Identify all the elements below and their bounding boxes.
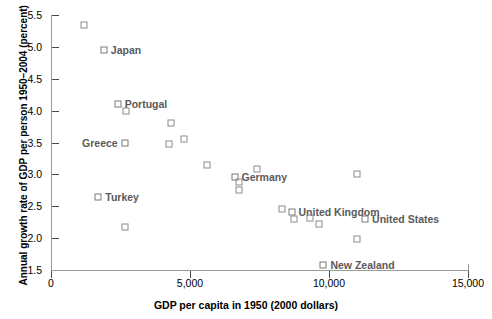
point-label: Portugal (125, 98, 168, 110)
y-tick (52, 238, 59, 239)
data-point-new-zealand (320, 261, 327, 268)
y-tick-label: 1.5 (8, 264, 42, 276)
data-point (167, 120, 174, 127)
data-point (235, 186, 242, 193)
data-point (81, 21, 88, 28)
y-tick (52, 79, 59, 80)
data-point (203, 161, 210, 168)
y-tick-label: 2.5 (8, 200, 42, 212)
y-tick-label: 4.5 (8, 73, 42, 85)
scatter-chart: Annual growth rate of GDP per person 195… (0, 0, 492, 319)
data-point-greece (121, 140, 128, 147)
x-axis-title: GDP per capita in 1950 (2000 dollars) (0, 299, 492, 311)
x-axis-line (51, 270, 469, 271)
point-label: Turkey (105, 191, 139, 203)
data-point-portugal (114, 101, 121, 108)
point-label: Germany (242, 171, 288, 183)
data-point-turkey (95, 193, 102, 200)
y-tick (52, 143, 59, 144)
y-tick-label: 3.5 (8, 137, 42, 149)
point-label: Japan (111, 44, 141, 56)
point-label: United States (372, 213, 439, 225)
data-point (166, 141, 173, 148)
data-point (181, 136, 188, 143)
x-tick-label: 5,000 (177, 277, 203, 289)
data-point (316, 221, 323, 228)
data-point (353, 235, 360, 242)
data-point-united-kingdom (288, 209, 295, 216)
data-point (253, 166, 260, 173)
y-tick-label: 5.0 (8, 41, 42, 53)
data-point (306, 214, 313, 221)
data-point-japan (100, 47, 107, 54)
data-point-united-states (362, 216, 369, 223)
data-point (121, 224, 128, 231)
point-label: Greece (82, 137, 118, 149)
y-tick (52, 206, 59, 207)
y-tick (52, 174, 59, 175)
data-point (235, 179, 242, 186)
x-tick-label: 0 (48, 277, 54, 289)
y-tick (52, 15, 59, 16)
y-tick (52, 47, 59, 48)
y-tick (52, 111, 59, 112)
y-tick-label: 5.5 (8, 9, 42, 21)
y-tick-label: 3.0 (8, 168, 42, 180)
y-tick-label: 4.0 (8, 105, 42, 117)
y-tick-label: 2.0 (8, 232, 42, 244)
data-point (123, 107, 130, 114)
data-point (291, 216, 298, 223)
point-label: New Zealand (330, 259, 394, 271)
x-tick-label: 15,000 (452, 277, 484, 289)
x-axis-right-cap (468, 264, 469, 271)
data-point (353, 170, 360, 177)
data-point (278, 206, 285, 213)
x-tick-label: 10,000 (313, 277, 345, 289)
